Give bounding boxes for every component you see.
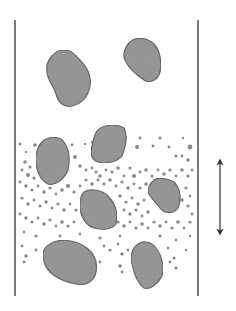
small-particle	[99, 261, 102, 264]
small-particle	[73, 155, 77, 159]
small-particle	[108, 178, 112, 182]
small-particle	[98, 174, 102, 178]
small-particle	[189, 235, 191, 237]
large-particles-group	[36, 38, 180, 288]
small-particle	[56, 202, 59, 205]
diagram-svg	[0, 0, 236, 311]
large-particle-3	[91, 125, 126, 163]
large-particle-8	[131, 242, 163, 288]
small-particle	[33, 143, 37, 147]
small-particle	[35, 249, 38, 252]
small-particle	[175, 239, 178, 242]
small-particle	[26, 173, 30, 177]
small-particle	[51, 207, 54, 210]
small-particle	[84, 178, 87, 181]
small-particle	[174, 154, 177, 157]
small-particle	[119, 235, 122, 238]
small-particle	[73, 221, 76, 224]
small-particle	[176, 220, 180, 224]
small-particle	[66, 224, 69, 227]
small-particle	[110, 170, 113, 173]
small-particle	[134, 208, 137, 211]
small-particle	[134, 226, 137, 229]
small-particle	[174, 266, 177, 269]
small-particle	[180, 198, 184, 202]
small-particle	[147, 227, 150, 230]
small-particle	[122, 224, 126, 228]
small-particle	[146, 210, 150, 214]
small-particle	[120, 252, 124, 256]
small-particle	[139, 171, 142, 174]
small-particle	[141, 215, 144, 218]
small-particle	[152, 220, 155, 223]
small-particle	[90, 182, 94, 186]
small-particle	[66, 184, 70, 188]
small-particle	[23, 160, 27, 164]
small-particle	[91, 167, 94, 170]
small-particle	[79, 233, 82, 236]
small-particle	[126, 186, 130, 190]
small-particle	[23, 231, 26, 234]
small-particle	[19, 213, 22, 216]
small-particle	[60, 188, 64, 192]
small-particle	[85, 169, 88, 172]
small-particle	[128, 212, 132, 216]
small-particle	[20, 196, 23, 199]
small-particle	[120, 180, 123, 183]
small-particle	[168, 168, 171, 171]
small-particle	[23, 261, 26, 264]
small-particle	[144, 182, 148, 186]
small-particle	[19, 143, 22, 146]
small-particle	[60, 220, 64, 224]
small-particle	[121, 271, 124, 274]
small-particle	[21, 245, 24, 248]
small-particle	[108, 248, 111, 251]
small-particle	[117, 243, 120, 246]
small-particle	[24, 184, 28, 188]
small-particle	[182, 137, 184, 139]
small-particle	[105, 169, 108, 172]
small-particle	[24, 254, 28, 258]
small-particle	[72, 190, 75, 193]
small-particle	[123, 175, 126, 178]
small-particle	[38, 204, 41, 207]
small-particle	[123, 209, 126, 212]
small-particle	[48, 218, 51, 221]
small-particle	[103, 245, 106, 248]
small-particle	[184, 186, 187, 189]
small-particle	[167, 247, 170, 250]
small-particle	[71, 144, 74, 147]
small-particle	[191, 213, 194, 216]
small-particle	[21, 169, 24, 172]
small-particle	[188, 220, 191, 223]
small-particle	[102, 182, 105, 185]
small-particle	[189, 195, 192, 198]
small-particle	[30, 188, 33, 191]
small-particle	[116, 166, 120, 170]
small-particle	[152, 145, 155, 148]
small-particle	[34, 234, 37, 237]
small-particle	[181, 155, 184, 158]
small-particle	[62, 208, 66, 212]
small-particle	[28, 165, 31, 168]
small-particle	[165, 221, 168, 224]
small-particle	[170, 226, 173, 229]
small-particle	[25, 151, 27, 153]
small-particle	[94, 170, 97, 173]
small-particle	[59, 235, 62, 238]
small-particle	[37, 217, 40, 220]
small-particle	[136, 202, 140, 206]
small-particle	[162, 172, 166, 176]
small-particle	[185, 249, 187, 251]
small-particle	[32, 176, 35, 179]
small-particle	[169, 261, 172, 264]
small-particle	[138, 186, 141, 189]
small-particle	[84, 143, 86, 145]
small-particle	[158, 234, 161, 237]
small-particle	[78, 164, 82, 168]
small-particle	[144, 168, 148, 172]
large-particle-7	[43, 240, 96, 284]
small-particle	[44, 200, 48, 204]
small-particle	[157, 169, 160, 172]
small-particle	[131, 197, 134, 200]
